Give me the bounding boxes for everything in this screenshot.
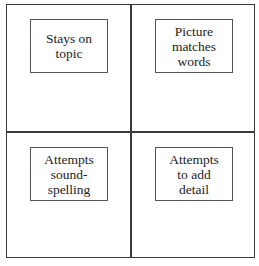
quadrant-label-text: Stays on topic: [46, 31, 92, 61]
quadrant-label-text: Attempts sound- spelling: [44, 152, 94, 197]
quadrant-label-top-left: Stays on topic: [30, 19, 108, 73]
quadrant-label-text: Picture matches words: [172, 24, 216, 69]
quadrant-label-bottom-right: Attempts to add detail: [155, 147, 233, 201]
quadrant-label-text: Attempts to add detail: [169, 152, 219, 197]
horizontal-divider: [6, 131, 255, 133]
quadrant-label-top-right: Picture matches words: [155, 19, 233, 73]
quadrant-label-bottom-left: Attempts sound- spelling: [30, 147, 108, 201]
